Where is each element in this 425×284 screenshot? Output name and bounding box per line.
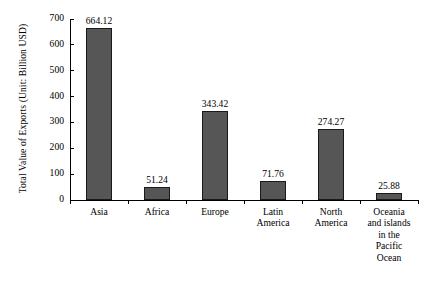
x-axis-category-label: Europe bbox=[182, 206, 248, 217]
y-tick-label: 600 bbox=[50, 38, 64, 49]
x-tick-mark bbox=[128, 200, 129, 204]
y-tick-mark bbox=[70, 70, 74, 71]
y-tick-label: 200 bbox=[50, 141, 64, 152]
y-tick-mark bbox=[70, 96, 74, 97]
x-tick-mark bbox=[186, 200, 187, 204]
y-tick-mark bbox=[70, 122, 74, 123]
x-tick-mark bbox=[70, 200, 71, 204]
bar-value-label: 664.12 bbox=[69, 15, 129, 26]
x-tick-mark bbox=[302, 200, 303, 204]
y-axis-title: Total Value of Exports (Unit: Billion US… bbox=[17, 11, 28, 207]
bar-chart: Total Value of Exports (Unit: Billion US… bbox=[0, 0, 425, 284]
x-tick-mark bbox=[244, 200, 245, 204]
bar-value-label: 25.88 bbox=[359, 180, 419, 191]
y-tick-label: 300 bbox=[50, 115, 64, 126]
x-axis-category-label: Oceania and islands in the Pacific Ocean bbox=[356, 206, 422, 263]
bar bbox=[86, 28, 112, 200]
x-axis-category-label: Asia bbox=[66, 206, 132, 217]
y-tick-label: 400 bbox=[50, 90, 64, 101]
y-tick-mark bbox=[70, 148, 74, 149]
plot-area: 0100200300400500600700 664.1251.24343.42… bbox=[70, 19, 418, 200]
bar bbox=[318, 129, 344, 200]
y-tick-label: 500 bbox=[50, 64, 64, 75]
x-axis-category-label: Latin America bbox=[240, 206, 306, 229]
y-tick-label: 700 bbox=[50, 12, 64, 23]
x-tick-mark bbox=[360, 200, 361, 204]
bar-value-label: 274.27 bbox=[301, 116, 361, 127]
x-axis-category-label: North America bbox=[298, 206, 364, 229]
bar bbox=[260, 181, 286, 200]
bar bbox=[376, 193, 402, 200]
bar bbox=[202, 111, 228, 200]
bar-value-label: 51.24 bbox=[127, 174, 187, 185]
x-axis-category-label: Africa bbox=[124, 206, 190, 217]
y-tick-mark bbox=[70, 174, 74, 175]
bar bbox=[144, 187, 170, 200]
y-tick-mark bbox=[70, 44, 74, 45]
bar-value-label: 343.42 bbox=[185, 98, 245, 109]
x-tick-mark bbox=[418, 200, 419, 204]
y-tick-label: 0 bbox=[59, 193, 64, 204]
y-tick-label: 100 bbox=[50, 167, 64, 178]
bar-value-label: 71.76 bbox=[243, 168, 303, 179]
